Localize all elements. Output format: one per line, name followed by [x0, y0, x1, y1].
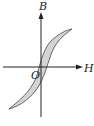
h-axis-arrow-icon: [76, 65, 83, 70]
hysteresis-diagram: [0, 0, 94, 126]
b-axis-arrow-icon: [39, 12, 44, 19]
origin-label: O: [31, 70, 40, 81]
h-axis-label: H: [84, 63, 94, 74]
b-axis-label: B: [39, 1, 47, 12]
